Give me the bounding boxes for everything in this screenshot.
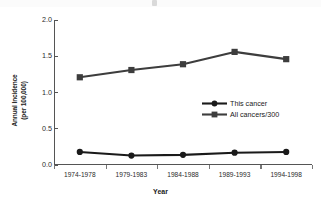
scan-speck [152,0,157,6]
y-axis-tick-label: 0.5 [26,124,52,134]
plot-area: 0.00.51.01.52.0 1974-19781979-19831984-1… [54,20,312,165]
legend-label-all-cancers: All cancers/300 [230,110,279,120]
legend-marker-square-icon [202,109,227,120]
y-axis-tick-label: 0.0 [26,160,52,170]
x-axis-title: Year [0,188,321,195]
y-axis-tick: 1.0 [24,88,58,98]
y-axis-tick-label: 1.5 [26,51,52,61]
y-axis-title-line1: Annual Incidence [11,41,20,161]
legend-item-all-cancers: All cancers/300 [202,109,306,120]
y-axis-tick: 0.5 [24,124,58,134]
data-point-circle [180,152,186,158]
data-point-square [232,49,238,55]
series-plot [54,20,312,165]
y-axis-tick-label: 1.0 [26,88,52,98]
data-point-square [128,67,134,73]
x-axis-tick-label: 1994-1998 [254,171,318,178]
y-axis-tick: 0.0 [24,160,58,170]
series-2 [77,49,290,81]
legend-label-this-cancer: This cancer [230,99,267,109]
x-axis-tick-mark [106,165,107,169]
y-axis-tick: 1.5 [24,51,58,61]
y-axis-tick: 2.0 [24,15,58,25]
data-point-square [77,74,83,80]
x-axis-tick-mark [312,165,313,169]
data-point-circle [232,150,238,156]
chart-legend: This cancer All cancers/300 [202,98,306,120]
series-1 [77,149,290,159]
data-point-circle [283,149,289,155]
data-point-circle [128,152,134,158]
data-point-square [283,56,289,62]
y-axis-tick-label: 2.0 [26,15,52,25]
legend-item-this-cancer: This cancer [202,98,306,109]
legend-marker-circle-icon [202,98,227,109]
data-point-square [180,61,186,67]
x-axis-tick-mark [54,165,55,169]
x-axis-tick-mark [260,165,261,169]
x-axis-tick-mark [157,165,158,169]
scan-artifact [0,0,321,7]
x-axis-tick-mark [209,165,210,169]
data-point-circle [77,149,83,155]
chart-figure: Annual Incidence (per 100,000) 0.00.51.0… [0,0,321,209]
